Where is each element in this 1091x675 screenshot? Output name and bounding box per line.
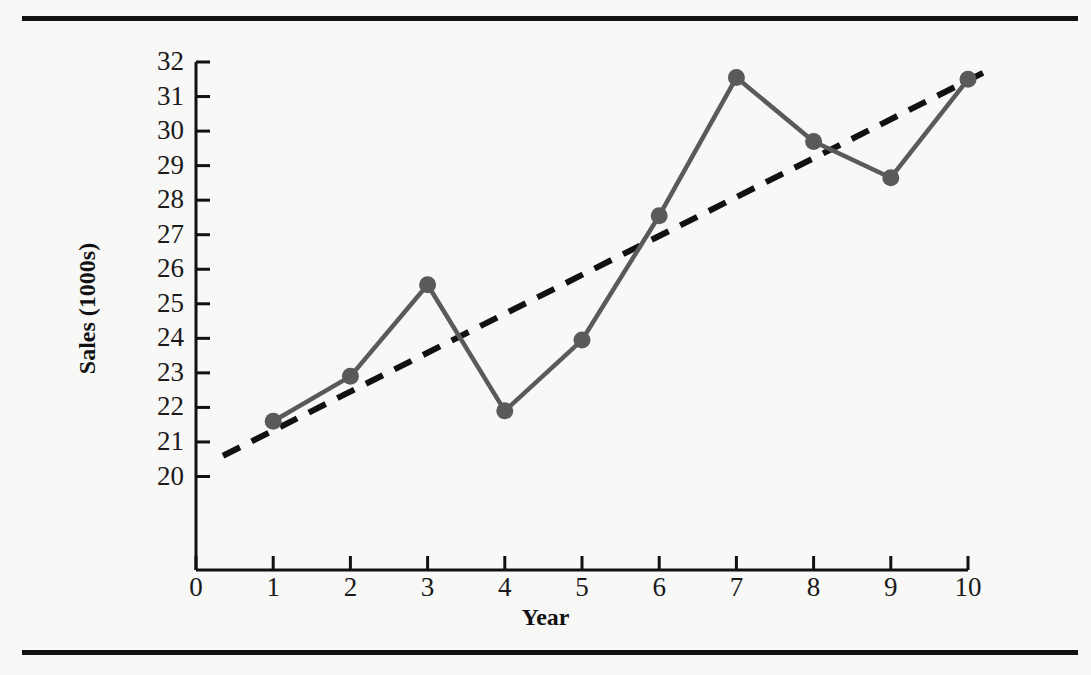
- data-point-marker: [882, 169, 899, 186]
- data-point-marker: [342, 368, 359, 385]
- data-point-marker: [728, 69, 745, 86]
- sales-data-markers: [265, 69, 977, 430]
- chart-figure: Sales (1000s) Year 202122232425262728293…: [0, 0, 1091, 675]
- data-point-marker: [574, 332, 591, 349]
- data-point-marker: [419, 276, 436, 293]
- sales-polyline: [273, 78, 968, 422]
- data-point-marker: [651, 207, 668, 224]
- plot-area: [0, 0, 1091, 675]
- data-point-marker: [960, 71, 977, 88]
- trend-line: [223, 71, 987, 456]
- trend-line-series: [223, 71, 987, 456]
- sales-line-series: [273, 78, 968, 422]
- data-point-marker: [496, 402, 513, 419]
- data-point-marker: [805, 133, 822, 150]
- data-point-marker: [265, 413, 282, 430]
